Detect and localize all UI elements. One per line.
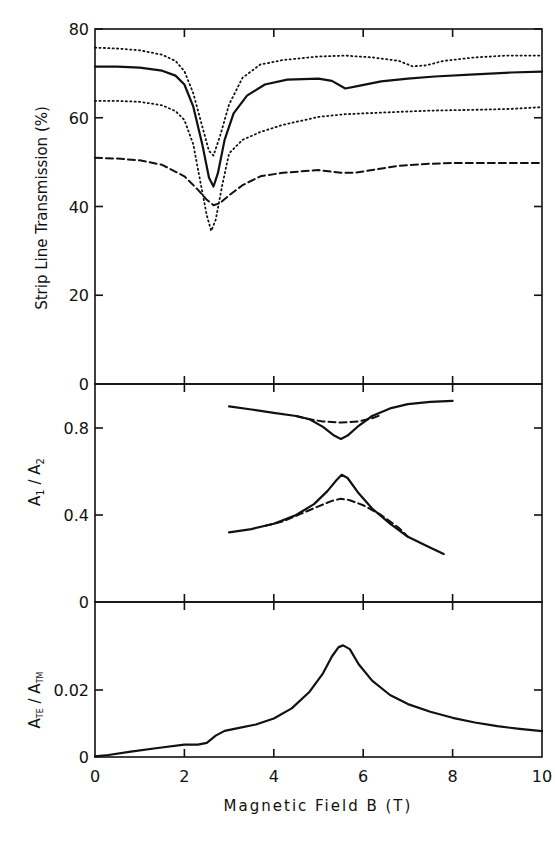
middle-panel-curves [229, 401, 453, 554]
curve-upper-solid [229, 401, 453, 439]
x-tick-labels: 0246810 [90, 767, 552, 786]
curve-lower-solid [229, 475, 444, 554]
curve-dashed [95, 158, 542, 206]
top-panel: 020406080 Strip Line Transmission (%) [33, 20, 542, 394]
x-tick-label: 2 [179, 767, 189, 786]
x-tick-label: 0 [90, 767, 100, 786]
y-tick-label: 0.02 [53, 681, 89, 700]
middle-ylabel: A1 / A2 [26, 458, 46, 506]
y-tick-label: 20 [69, 286, 89, 305]
middle-panel-frame [95, 384, 542, 602]
x-tick-label: 10 [532, 767, 552, 786]
curve-solid [95, 67, 542, 187]
y-tick-label: 0.8 [64, 419, 89, 438]
top-ylabel: Strip Line Transmission (%) [33, 106, 51, 310]
y-tick-label: 0.4 [64, 506, 89, 525]
bottom-panel-curves [95, 645, 542, 756]
y-tick-label: 0 [79, 375, 89, 394]
curve-upper-dashed [296, 415, 381, 423]
x-tick-label: 8 [448, 767, 458, 786]
curve-solid [95, 645, 542, 756]
figure: 020406080 Strip Line Transmission (%) 00… [0, 0, 555, 856]
x-axis-title: Magnetic Field B (T) [224, 797, 413, 815]
y-tick-label: 40 [69, 198, 89, 217]
x-tick-label: 4 [269, 767, 279, 786]
y-tick-label: 0 [79, 593, 89, 612]
bottom-ylabel: ATE / ATM [26, 671, 45, 728]
top-panel-ticks: 020406080 [69, 20, 542, 394]
curve-dotted-lower [95, 101, 542, 231]
curve-dotted-upper [95, 48, 542, 156]
x-tick-label: 6 [358, 767, 368, 786]
top-panel-curves [95, 48, 542, 231]
y-tick-label: 0 [79, 748, 89, 767]
y-tick-label: 80 [69, 20, 89, 39]
y-tick-label: 60 [69, 109, 89, 128]
top-panel-frame [95, 29, 542, 384]
middle-panel: 00.40.8 A1 / A2 [26, 384, 542, 612]
bottom-panel-ticks: 00.02 [53, 602, 542, 767]
bottom-panel: 00.02 ATE / ATM [26, 602, 542, 767]
